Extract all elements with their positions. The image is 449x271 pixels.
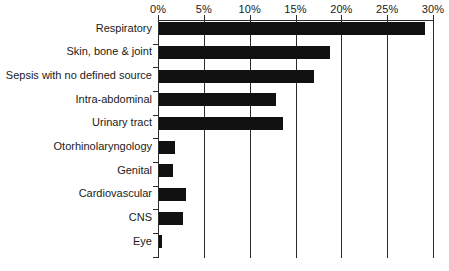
bar bbox=[159, 117, 283, 130]
category-label: Otorhinolaryngology bbox=[4, 140, 156, 152]
x-axis-tick-label: 30% bbox=[422, 3, 444, 15]
bar bbox=[159, 235, 162, 248]
category-label: Eye bbox=[4, 235, 156, 247]
category-label: Sepsis with no defined source bbox=[4, 69, 156, 81]
bar bbox=[159, 70, 314, 83]
gridline bbox=[341, 20, 342, 258]
x-axis-tick-label: 25% bbox=[376, 3, 398, 15]
plot-area bbox=[158, 20, 433, 258]
bar bbox=[159, 212, 183, 225]
bar bbox=[159, 93, 276, 106]
x-axis-tick-label: 10% bbox=[238, 3, 260, 15]
x-axis-tick-label: 15% bbox=[284, 3, 306, 15]
category-label: Urinary tract bbox=[4, 116, 156, 128]
bar bbox=[159, 164, 173, 177]
horizontal-bar-chart: 0%5%10%15%20%25%30% RespiratorySkin, bon… bbox=[0, 0, 449, 271]
category-label: Skin, bone & joint bbox=[4, 45, 156, 57]
category-axis-labels: RespiratorySkin, bone & jointSepsis with… bbox=[0, 0, 156, 271]
category-label: Genital bbox=[4, 164, 156, 176]
category-label: Respiratory bbox=[4, 22, 156, 34]
category-label: Cardiovascular bbox=[4, 187, 156, 199]
x-axis-tick-label: 5% bbox=[196, 3, 212, 15]
bar bbox=[159, 22, 425, 35]
bar bbox=[159, 188, 186, 201]
x-axis-tick-label: 20% bbox=[330, 3, 352, 15]
bar bbox=[159, 141, 175, 154]
bar bbox=[159, 46, 330, 59]
category-label: CNS bbox=[4, 211, 156, 223]
category-label: Intra-abdominal bbox=[4, 93, 156, 105]
gridline bbox=[387, 20, 388, 258]
gridline bbox=[433, 20, 434, 258]
